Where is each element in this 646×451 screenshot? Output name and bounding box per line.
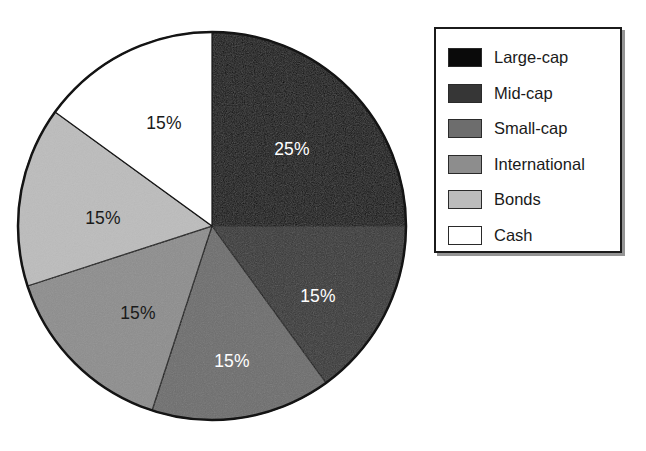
legend-item[interactable]: Mid-cap bbox=[448, 77, 612, 110]
legend-item-label: International bbox=[494, 156, 585, 173]
pie-slice-label: 15% bbox=[120, 303, 156, 323]
legend-item-label: Mid-cap bbox=[494, 85, 553, 102]
legend-item-list: Large-capMid-capSmall-capInternationalBo… bbox=[448, 41, 612, 243]
pie-chart-graphic: 25%15%15%15%15%15% bbox=[0, 0, 430, 451]
pie-chart-figure: 25%15%15%15%15%15% Large-capMid-capSmall… bbox=[0, 0, 646, 451]
legend-swatch-icon bbox=[448, 155, 482, 174]
legend-item[interactable]: Cash bbox=[448, 219, 612, 252]
legend-swatch-icon bbox=[448, 84, 482, 103]
pie-slice-label: 25% bbox=[274, 139, 310, 159]
legend-item[interactable]: Large-cap bbox=[448, 41, 612, 74]
legend-item-label: Bonds bbox=[494, 191, 541, 208]
chart-legend: Large-capMid-capSmall-capInternationalBo… bbox=[434, 27, 622, 253]
legend-swatch-icon bbox=[448, 119, 482, 138]
legend-item-label: Small-cap bbox=[494, 120, 567, 137]
legend-swatch-icon bbox=[448, 226, 482, 245]
pie-slices-group bbox=[18, 32, 406, 420]
pie-slice-label: 15% bbox=[214, 351, 250, 371]
pie-slice-label: 15% bbox=[85, 208, 121, 228]
legend-item-label: Large-cap bbox=[494, 49, 568, 66]
legend-item-label: Cash bbox=[494, 227, 533, 244]
pie-slice-label: 15% bbox=[146, 113, 182, 133]
pie-slice-label: 15% bbox=[300, 286, 336, 306]
pie-svg: 25%15%15%15%15%15% bbox=[0, 0, 430, 451]
legend-swatch-icon bbox=[448, 48, 482, 67]
pie-slice bbox=[212, 32, 406, 226]
legend-item[interactable]: International bbox=[448, 148, 612, 181]
legend-item[interactable]: Bonds bbox=[448, 183, 612, 216]
legend-item[interactable]: Small-cap bbox=[448, 112, 612, 145]
legend-swatch-icon bbox=[448, 190, 482, 209]
